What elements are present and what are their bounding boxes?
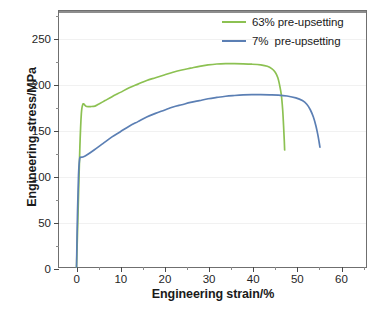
y-tick-label-250: 250 xyxy=(32,33,51,45)
y-tick-label-50: 50 xyxy=(38,217,51,229)
y-tick-0 xyxy=(54,269,59,270)
stress-strain-chart-figure: Engineering stress/MPa 050100150200250 0… xyxy=(0,0,375,317)
x-tick-40 xyxy=(253,267,254,272)
legend-swatch-blue xyxy=(222,40,246,42)
x-tick-label-60: 60 xyxy=(335,273,348,285)
x-tick-55 xyxy=(319,267,320,270)
x-tick-label-10: 10 xyxy=(114,273,127,285)
x-tick-label-0: 0 xyxy=(73,273,79,285)
data-curves xyxy=(59,11,366,267)
caption-sliver xyxy=(40,310,360,317)
y-tick-label-150: 150 xyxy=(32,125,51,137)
x-tick-5 xyxy=(99,267,100,270)
x-tick-30 xyxy=(209,267,210,272)
x-tick-65 xyxy=(364,267,365,270)
x-tick-25 xyxy=(187,267,188,270)
x-tick-label-50: 50 xyxy=(291,273,304,285)
x-tick-15 xyxy=(143,267,144,270)
x-tick-35 xyxy=(231,267,232,270)
x-tick-60 xyxy=(342,267,343,272)
x-tick-label-40: 40 xyxy=(247,273,260,285)
legend-label-green: 63% pre-upsetting xyxy=(252,16,344,28)
x-tick-10 xyxy=(121,267,122,272)
x-tick-50 xyxy=(297,267,298,272)
legend-item-0[interactable]: 63% pre-upsetting xyxy=(222,14,368,29)
y-tick-label-100: 100 xyxy=(32,171,51,183)
x-tick-45 xyxy=(275,267,276,270)
legend-swatch-green xyxy=(222,21,246,23)
x-axis-title: Engineering strain/% xyxy=(58,287,368,301)
y-axis-title: Engineering stress/MPa xyxy=(25,17,39,257)
x-tick-label-30: 30 xyxy=(203,273,216,285)
legend-item-1[interactable]: 7% pre-upsetting xyxy=(222,33,368,48)
x-tick-label-20: 20 xyxy=(159,273,172,285)
legend-label-blue: 7% pre-upsetting xyxy=(252,35,340,47)
x-tick-20 xyxy=(165,267,166,272)
plot-area: 050100150200250 0102030405060 xyxy=(58,10,367,268)
y-tick-label-0: 0 xyxy=(45,263,51,275)
y-tick-label-200: 200 xyxy=(32,79,51,91)
legend: 63% pre-upsetting 7% pre-upsetting xyxy=(222,14,368,48)
